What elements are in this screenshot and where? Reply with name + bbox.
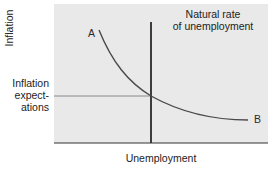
x-axis-label: Unemployment <box>54 152 268 164</box>
phillips-curve <box>99 30 248 120</box>
point-a-label: A <box>88 27 95 39</box>
point-b-label: B <box>254 113 261 125</box>
y-axis-label: Inflation <box>3 8 17 48</box>
natural-rate-label: Natural rate of unemployment <box>157 8 269 32</box>
inflation-expectations-label: Inflation expect- ations <box>0 77 49 113</box>
